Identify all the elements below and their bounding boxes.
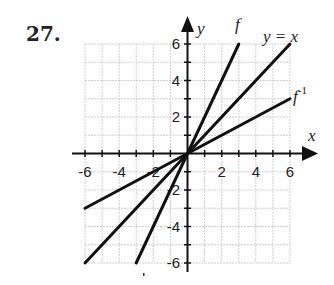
y-tick-label: 2 [172, 108, 180, 125]
y-tick-label: 6 [172, 35, 180, 52]
x-tick-label: -6 [78, 163, 91, 180]
y-tick-label: -6 [167, 254, 180, 271]
identity-label: y = x [261, 27, 299, 46]
f-inverse-label: f-1 [293, 84, 307, 106]
x-tick-label: 6 [286, 163, 294, 180]
x-tick-label: 2 [218, 163, 226, 180]
y-tick-label: 4 [172, 72, 180, 89]
x-tick-label: 4 [252, 163, 260, 180]
x-tick-label: -4 [113, 163, 126, 180]
y-axis-label: y [195, 19, 205, 38]
x-axis-label: x [307, 126, 316, 145]
y-tick-label: -4 [167, 218, 180, 235]
f-label: f [235, 15, 242, 34]
f-inverse-superscript: -1 [298, 84, 307, 96]
x-axis-arrow-icon [302, 146, 318, 161]
stray-mark [143, 273, 145, 276]
graph: -6 -4 -2 2 4 6 6 4 2 -2 -4 -6 y x f y = … [0, 0, 334, 285]
y-axis-arrow-icon [181, 16, 194, 32]
